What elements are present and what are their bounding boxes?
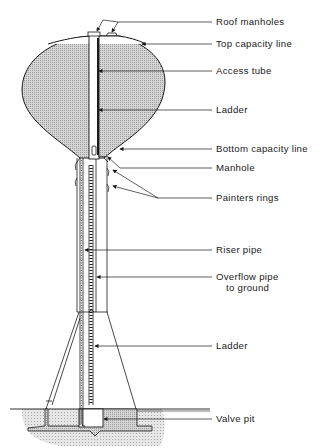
label-manhole: Manhole [216,162,255,173]
label-valve-pit: Valve pit [216,413,255,424]
label-riser-pipe: Riser pipe [216,244,262,255]
label-overflow-pipe-line2: to ground [226,282,269,293]
water-tower-diagram [0,0,323,448]
label-ladder-lower: Ladder [216,340,248,351]
roof-manholes [88,32,117,36]
label-overflow-pipe: Overflow pipe [216,271,279,282]
label-roof-manholes: Roof manholes [216,16,284,27]
ladder [89,165,93,405]
access-tube [89,34,99,159]
label-bottom-capacity-line: Bottom capacity line [216,143,308,154]
bottom-manhole [92,146,96,155]
label-access-tube: Access tube [216,65,272,76]
label-ladder-upper: Ladder [216,104,248,115]
label-painters-rings: Painters rings [216,192,279,203]
label-top-capacity-line: Top capacity line [216,38,292,49]
riser-pipe [80,158,83,425]
